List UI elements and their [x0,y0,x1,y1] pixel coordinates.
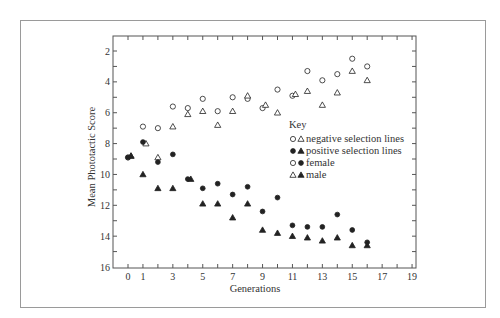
x-tick-label: 7 [230,271,235,282]
filled-triangle-point [334,235,340,240]
filled-triangle-point [140,171,146,176]
scatter-chart: 0135791113151719246810121416 Generations… [0,0,500,318]
open-circle-point [335,72,340,77]
filled-circle-point [245,184,250,189]
open-circle-point [140,124,145,129]
open-circle-point [185,105,190,110]
open-circle-point [170,104,175,109]
open-triangle-point [274,110,280,115]
y-tick-label: 10 [100,169,110,180]
x-tick-label: 9 [260,271,265,282]
open-circle-point [230,95,235,100]
filled-circle-point [275,195,280,200]
filled-triangle-point [215,201,221,206]
filled-circle-point [290,223,295,228]
x-tick-label: 0 [126,271,131,282]
open-triangle-point [334,90,340,95]
open-circle-point [155,126,160,131]
open-triangle-point [319,102,325,107]
open-triangle-point [364,77,370,82]
x-tick-label: 19 [407,271,417,282]
x-tick-label: 5 [200,271,205,282]
filled-circle-legend-icon [291,149,296,154]
open-circle-legend-icon [290,136,295,141]
filled-circle-point [260,209,265,214]
open-circle-point [320,78,325,83]
open-circle-point [365,64,370,69]
y-axis-title: Mean Phototactic Score [86,107,97,208]
open-triangle-point [304,88,310,93]
x-tick-label: 1 [140,271,145,282]
filled-circle-point [170,152,175,157]
x-tick-label: 3 [170,271,175,282]
filled-triangle-legend-icon [298,148,304,153]
filled-triangle-point [245,201,251,206]
x-tick-label: 17 [377,271,387,282]
filled-triangle-point [289,233,295,238]
filled-circle-point [305,225,310,230]
filled-triangle-point [274,230,280,235]
filled-circle-point [320,225,325,230]
filled-triangle-point [319,238,325,243]
filled-circle-point [230,192,235,197]
filled-circle-point [200,186,205,191]
y-tick-label: 16 [100,262,110,273]
legend-label-male: male [306,169,327,180]
filled-circle-point [335,212,340,217]
open-circle-point [305,68,310,73]
open-triangle-point [215,122,221,127]
x-axis-title: Generations [230,283,281,294]
legend-label-female: female [306,157,335,168]
legend-entries: negative selection lines positive select… [290,133,404,180]
open-circle-point [215,109,220,114]
filled-triangle-point [349,242,355,247]
legend-label-negative: negative selection lines [306,133,404,144]
open-triangle-point [170,124,176,129]
filled-circle-legend-icon [299,161,304,166]
open-circle-point [275,87,280,92]
open-triangle-point [185,111,191,116]
filled-circle-point [215,181,220,186]
open-triangle-point [349,68,355,73]
filled-circle-point [141,140,146,145]
legend-label-positive: positive selection lines [306,145,402,156]
filled-triangle-point [200,201,206,206]
open-circle-point [350,56,355,61]
filled-triangle-point [304,235,310,240]
filled-circle-point [350,228,355,233]
open-triangle-point [155,154,161,159]
open-triangle-legend-icon [298,136,304,141]
x-tick-label: 13 [317,271,327,282]
filled-triangle-point [230,215,236,220]
open-circle-point [200,96,205,101]
y-tick-label: 6 [105,107,110,118]
y-tick-label: 4 [105,76,110,87]
open-triangle-point [230,108,236,113]
y-tick-label: 2 [105,46,110,57]
legend: Key negative selection lines positive se… [289,119,404,180]
y-tick-label: 12 [100,200,110,211]
y-tick-label: 8 [105,138,110,149]
x-tick-label: 11 [288,271,298,282]
open-triangle-point [262,102,268,107]
filled-triangle-point [155,185,161,190]
open-circle-legend-icon [290,160,295,165]
filled-circle-point [156,160,161,165]
y-tick-label: 14 [100,231,110,242]
legend-title: Key [289,119,307,130]
open-triangle-point [245,93,251,98]
open-triangle-point [200,108,206,113]
filled-triangle-point [259,227,265,232]
filled-triangle-legend-icon [298,172,304,177]
open-triangle-legend-icon [290,172,296,177]
filled-triangle-point [170,185,176,190]
x-tick-label: 15 [347,271,357,282]
